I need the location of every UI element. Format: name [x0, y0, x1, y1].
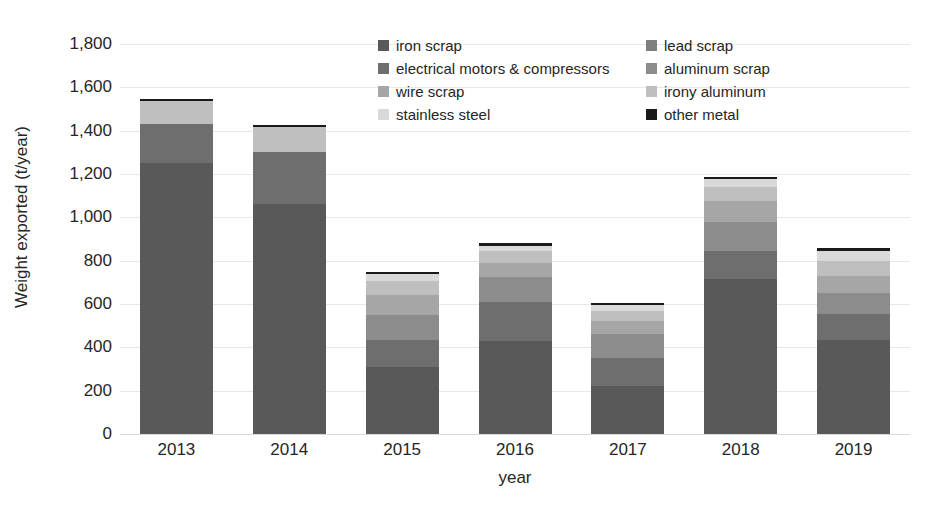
bar-segment[interactable] [591, 358, 664, 386]
legend-swatch-icon [646, 109, 657, 120]
y-axis-tick-label: 400 [84, 337, 112, 357]
legend-swatch-icon [646, 40, 657, 51]
bar-segment[interactable] [479, 277, 552, 302]
y-axis-tick-label: 0 [103, 424, 112, 444]
bar-segment[interactable] [366, 367, 439, 434]
stacked-bar-chart: Weight exported (t/year) 02004006008001,… [0, 0, 925, 510]
legend-swatch-icon [646, 63, 657, 74]
bar-segment[interactable] [704, 187, 777, 201]
legend-item[interactable]: irony aluminum [646, 83, 908, 100]
x-axis-tick-label: 2015 [383, 440, 421, 460]
bar-segment[interactable] [704, 201, 777, 222]
bar-segment[interactable] [366, 274, 439, 282]
legend-item-label: lead scrap [664, 37, 733, 54]
chart-legend: iron scraplead scrapelectrical motors & … [378, 34, 908, 126]
x-axis-tick-label: 2017 [609, 440, 647, 460]
bar-stack [704, 177, 777, 434]
y-axis-tick-label: 1,800 [69, 34, 112, 54]
x-axis-tick-labels: 2013201420152016201720182019 [120, 440, 910, 468]
y-axis-tick-label: 800 [84, 251, 112, 271]
bar-segment[interactable] [479, 341, 552, 434]
bar-stack [591, 303, 664, 434]
legend-swatch-icon [378, 40, 389, 51]
bar-segment[interactable] [817, 251, 890, 261]
bar-stack [479, 243, 552, 434]
bar-segment[interactable] [817, 261, 890, 276]
legend-item-label: wire scrap [396, 83, 464, 100]
bar-segment[interactable] [366, 340, 439, 367]
bar-segment[interactable] [140, 101, 213, 124]
bar-segment[interactable] [479, 302, 552, 341]
legend-item-label: aluminum scrap [664, 60, 770, 77]
bar-segment[interactable] [591, 334, 664, 358]
bar-stack [253, 125, 326, 434]
x-axis-tick-label: 2014 [270, 440, 308, 460]
bar-segment[interactable] [817, 314, 890, 340]
legend-swatch-icon [378, 86, 389, 97]
bar-group[interactable] [140, 44, 213, 434]
legend-item-label: other metal [664, 106, 739, 123]
y-axis-tick-label: 200 [84, 381, 112, 401]
bar-segment[interactable] [591, 321, 664, 334]
bar-segment[interactable] [704, 179, 777, 187]
bar-segment[interactable] [366, 281, 439, 295]
bar-segment[interactable] [704, 251, 777, 279]
y-axis-tick-label: 1,200 [69, 164, 112, 184]
legend-item[interactable]: other metal [646, 106, 908, 123]
bar-segment[interactable] [704, 222, 777, 251]
legend-item[interactable]: iron scrap [378, 37, 646, 54]
legend-swatch-icon [378, 109, 389, 120]
bar-segment[interactable] [366, 315, 439, 340]
x-axis-tick-label: 2013 [158, 440, 196, 460]
legend-item-label: stainless steel [396, 106, 490, 123]
legend-item[interactable]: aluminum scrap [646, 60, 908, 77]
axis-baseline [120, 434, 910, 435]
y-axis-tick-label: 1,000 [69, 207, 112, 227]
bar-segment[interactable] [817, 293, 890, 314]
legend-item[interactable]: lead scrap [646, 37, 908, 54]
x-axis-tick-label: 2018 [722, 440, 760, 460]
bar-segment[interactable] [140, 124, 213, 163]
bar-segment[interactable] [253, 152, 326, 204]
x-axis-tick-label: 2019 [835, 440, 873, 460]
y-axis-title: Weight exported (t/year) [0, 0, 44, 434]
bar-segment[interactable] [140, 163, 213, 434]
bar-segment[interactable] [704, 279, 777, 434]
bar-segment[interactable] [817, 340, 890, 434]
bar-segment[interactable] [591, 311, 664, 322]
legend-item-label: iron scrap [396, 37, 462, 54]
bar-segment[interactable] [253, 204, 326, 434]
legend-item-label: irony aluminum [664, 83, 766, 100]
y-axis-tick-label: 1,400 [69, 121, 112, 141]
x-axis-tick-label: 2016 [496, 440, 534, 460]
y-axis-title-text: Weight exported (t/year) [12, 126, 32, 308]
legend-item-label: electrical motors & compressors [396, 60, 609, 77]
bar-stack [817, 248, 890, 434]
bar-group[interactable] [253, 44, 326, 434]
legend-item[interactable]: stainless steel [378, 106, 646, 123]
x-axis-title: year [120, 468, 910, 488]
legend-item[interactable]: wire scrap [378, 83, 646, 100]
bar-segment[interactable] [591, 386, 664, 434]
bar-segment[interactable] [479, 263, 552, 277]
bar-segment[interactable] [253, 127, 326, 152]
bar-stack [140, 99, 213, 434]
bar-segment[interactable] [366, 295, 439, 315]
bar-segment[interactable] [817, 276, 890, 293]
bar-segment[interactable] [479, 251, 552, 263]
y-axis-tick-labels: 02004006008001,0001,2001,4001,6001,800 [44, 44, 120, 434]
legend-swatch-icon [646, 86, 657, 97]
y-axis-tick-label: 1,600 [69, 77, 112, 97]
legend-item[interactable]: electrical motors & compressors [378, 60, 646, 77]
y-axis-tick-label: 600 [84, 294, 112, 314]
legend-swatch-icon [378, 63, 389, 74]
bar-stack [366, 272, 439, 434]
